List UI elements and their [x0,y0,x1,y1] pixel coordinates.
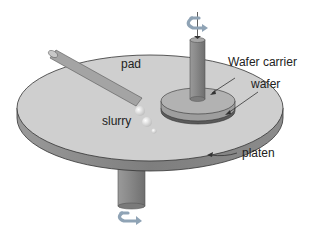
carrier-shaft [190,38,205,102]
rotation-arrow-icon [188,12,208,39]
label-wafer-carrier: Wafer carrier [228,55,297,69]
rotation-arrow-icon [119,213,142,225]
label-slurry: slurry [102,114,131,128]
label-platen: platen [242,146,275,160]
label-wafer: wafer [250,77,280,91]
cmp-diagram: pad Wafer carrier wafer slurry platen [0,0,310,236]
label-pad: pad [121,57,141,71]
